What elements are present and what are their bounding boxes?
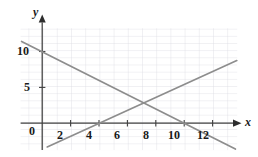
graph-canvas xyxy=(0,0,258,157)
x-tick-label-2: 2 xyxy=(57,129,63,141)
x-tick-label-10: 10 xyxy=(168,129,180,141)
x-tick-label-4: 4 xyxy=(86,129,92,141)
y-tick-label-10: 10 xyxy=(17,45,29,57)
y-tick-label-5: 5 xyxy=(24,81,30,93)
x-tick-label-8: 8 xyxy=(143,129,149,141)
origin-label: 0 xyxy=(29,125,35,137)
x-tick-label-6: 6 xyxy=(114,129,120,141)
x-axis-label: x xyxy=(245,116,251,128)
coordinate-graph-figure: y x 0 10 5 2 4 6 8 10 12 xyxy=(0,0,258,157)
x-tick-label-12: 12 xyxy=(197,129,209,141)
y-axis-label: y xyxy=(33,6,38,18)
